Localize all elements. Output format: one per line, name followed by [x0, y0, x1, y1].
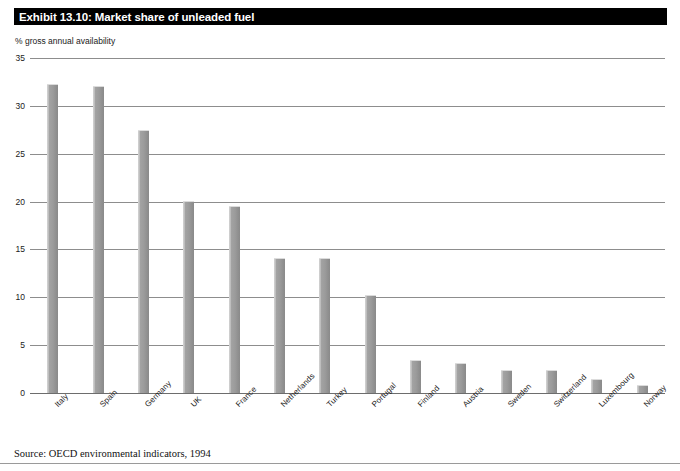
exhibit-title-bar: Exhibit 13.10: Market share of unleaded … [14, 8, 667, 25]
footer-divider [0, 463, 680, 464]
y-axis-tick-25: 25 [16, 149, 25, 159]
y-axis-tick-10: 10 [16, 292, 25, 302]
bar-slot: France [211, 58, 256, 393]
bar-slot: Sweden [484, 58, 529, 393]
y-axis-tick-5: 5 [20, 340, 25, 350]
x-axis-label-uk: UK [189, 395, 203, 409]
bar-slot: Finland [393, 58, 438, 393]
y-axis-tick-0: 0 [20, 388, 25, 398]
bar-uk [183, 201, 194, 393]
bar-slot: Turkey [302, 58, 347, 393]
y-axis-tick-35: 35 [16, 53, 25, 63]
bar-slot: Switzerland [529, 58, 574, 393]
y-axis-caption: % gross annual availability [15, 36, 115, 46]
bar-sweden [501, 370, 512, 393]
bar-slot: Spain [75, 58, 120, 393]
bars-group: ItalySpainGermanyUKFranceNetherlandsTurk… [30, 58, 665, 393]
y-axis-tick-20: 20 [16, 197, 25, 207]
bar-slot: Portugal [348, 58, 393, 393]
bar-norway [637, 385, 648, 393]
bar-italy [47, 84, 58, 393]
y-axis-tick-15: 15 [16, 244, 25, 254]
bar-spain [93, 86, 104, 393]
x-axis-label-italy: Italy [53, 392, 70, 409]
bar-chart: 05101520253035 ItalySpainGermanyUKFrance… [30, 58, 665, 393]
source-note: Source: OECD environmental indicators, 1… [14, 448, 211, 459]
bar-slot: Luxembourg [574, 58, 619, 393]
bar-slot: UK [166, 58, 211, 393]
bar-slot: Netherlands [257, 58, 302, 393]
bar-slot: Austria [438, 58, 483, 393]
bar-slot: Italy [30, 58, 75, 393]
bar-turkey [319, 258, 330, 393]
bar-finland [410, 360, 421, 394]
bar-slot: Germany [121, 58, 166, 393]
bar-netherlands [274, 258, 285, 393]
bar-austria [455, 363, 466, 393]
bar-germany [138, 130, 149, 393]
bar-luxembourg [591, 379, 602, 393]
bar-portugal [365, 295, 376, 393]
page-title: Exhibit 13.10: Market share of unleaded … [14, 11, 254, 23]
y-axis-tick-30: 30 [16, 101, 25, 111]
bar-slot: Norway [620, 58, 665, 393]
bar-switzerland [546, 370, 557, 393]
bar-france [229, 206, 240, 393]
